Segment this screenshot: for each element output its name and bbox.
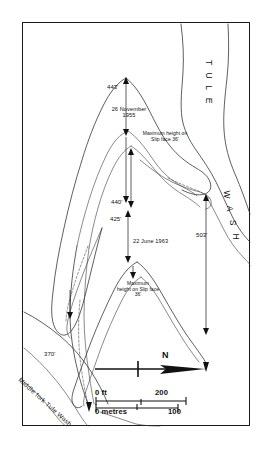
scale-metres-zero-label: 0 metres: [95, 408, 127, 417]
survey-date-1955: 26 November 1955: [103, 106, 155, 119]
north-arrow-label: N: [162, 350, 169, 360]
map-frame-border: [22, 22, 250, 426]
slip-face-note-upper: Maximum height on Slip face 36': [133, 131, 197, 142]
wash-letter-h: H: [231, 233, 241, 240]
slip-face-note-lower-value: 36': [135, 291, 142, 297]
elevation-label-440: 440': [111, 199, 123, 206]
survey-date-1955-day: 26 November: [112, 106, 147, 112]
scale-metres-end-label: 100: [168, 408, 181, 417]
wash-letter-s: S: [227, 220, 237, 226]
scale-feet-zero-label: 0 ft: [95, 389, 107, 398]
dune-migration-map: 443' 26 November 1955 Maximum height on …: [0, 0, 273, 464]
elevation-label-443: 443': [107, 84, 119, 91]
label-tule-wash-upper: T U L E: [205, 58, 212, 105]
survey-date-1963: 22 June 1963: [133, 238, 168, 244]
elevation-label-370: 370': [44, 351, 56, 358]
slip-face-note-upper-line2: Slip face: [151, 136, 171, 142]
survey-date-1955-year: 1955: [123, 112, 136, 118]
scale-feet-end-label: 200: [155, 389, 168, 398]
slip-face-note-upper-value: 36': [172, 136, 179, 142]
elevation-label-503: 503': [196, 232, 208, 239]
wash-letter-w: W: [221, 191, 231, 199]
tule-letter-t: T: [204, 60, 214, 66]
tule-letter-u: U: [204, 72, 214, 79]
tule-letter-e: E: [204, 97, 214, 103]
tule-letter-l: L: [204, 85, 214, 90]
slip-face-note-lower: Maximum height on Slip face 36': [99, 281, 177, 298]
elevation-label-425: 425': [110, 216, 122, 223]
wash-letter-a: A: [224, 206, 234, 212]
